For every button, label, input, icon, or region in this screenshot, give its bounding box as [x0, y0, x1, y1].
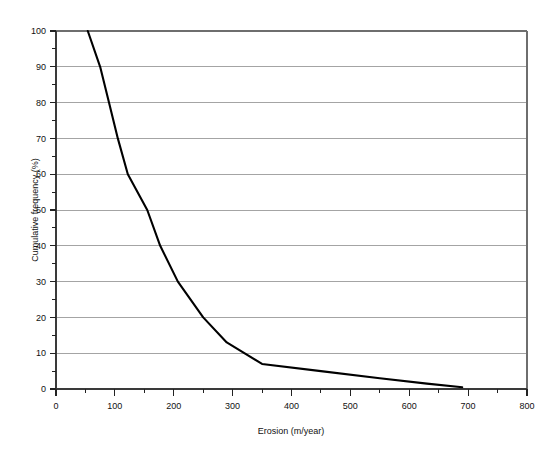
x-tick-label: 0	[53, 401, 58, 411]
x-tick-label: 200	[166, 401, 181, 411]
y-tick-label: 10	[36, 348, 46, 358]
x-tick-label: 800	[519, 401, 534, 411]
x-tick-label: 500	[343, 401, 358, 411]
y-tick-label: 0	[41, 384, 46, 394]
y-tick-label: 90	[36, 62, 46, 72]
y-tick-label: 70	[36, 134, 46, 144]
y-tick-label: 30	[36, 277, 46, 287]
x-tick-label: 700	[461, 401, 476, 411]
x-axis-title: Erosion (m/year)	[258, 426, 325, 436]
x-tick-label: 600	[402, 401, 417, 411]
x-axis-tick-labels: 0100200300400500600700800	[53, 401, 534, 411]
x-tick-label: 100	[107, 401, 122, 411]
y-axis-ticks	[50, 31, 56, 389]
x-tick-label: 300	[225, 401, 240, 411]
x-tick-label: 400	[284, 401, 299, 411]
cumulative-frequency-chart: 0102030405060708090100 01002003004005006…	[0, 0, 558, 453]
y-tick-label: 80	[36, 98, 46, 108]
x-axis-ticks	[56, 389, 527, 396]
chart-figure: 0102030405060708090100 01002003004005006…	[0, 0, 558, 453]
y-axis-title: Cumulative frequency (%)	[30, 158, 40, 262]
y-tick-label: 100	[31, 26, 46, 36]
y-tick-label: 20	[36, 313, 46, 323]
